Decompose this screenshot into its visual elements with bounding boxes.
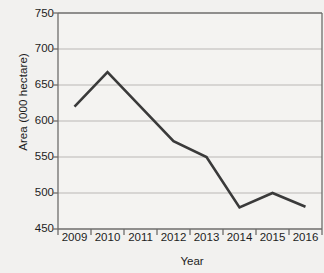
line-chart: Area (000 hectare) Year 750 700 650 600 … bbox=[0, 0, 324, 273]
x-axis-ticks bbox=[58, 229, 322, 235]
chart-canvas bbox=[0, 0, 324, 273]
y-axis-ticks bbox=[53, 13, 58, 229]
